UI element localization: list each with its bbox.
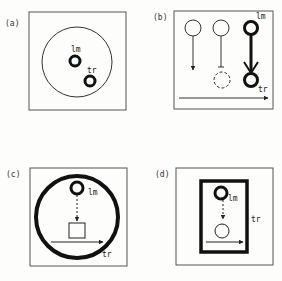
landmark-circle xyxy=(70,56,80,66)
panel-a-label: (a) xyxy=(5,19,19,28)
trajector-label: tr xyxy=(251,215,261,224)
panel-b-label: (b) xyxy=(153,13,167,22)
target-square xyxy=(69,223,85,238)
trajector-region-rect xyxy=(201,181,247,252)
landmark-circle xyxy=(215,187,227,199)
object-circle-middle xyxy=(213,20,229,36)
panel-d: (d) lm tr xyxy=(155,168,273,265)
object-circle-start xyxy=(185,20,201,36)
trajector-circle xyxy=(85,76,95,86)
landmark-label: lm xyxy=(71,45,81,54)
landmark-circle xyxy=(71,182,83,194)
panel-c-label: (c) xyxy=(6,170,20,179)
panel-a: (a) lm tr xyxy=(5,12,126,110)
region-circle xyxy=(42,27,112,97)
trajector-label: tr xyxy=(258,85,268,94)
dashed-destination-circle xyxy=(214,72,230,88)
figure: (a) lm tr (b) lm tr (c) lm xyxy=(0,0,282,281)
landmark-label: lm xyxy=(88,188,98,197)
panel-b: (b) lm tr xyxy=(153,11,273,109)
landmark-label: lm xyxy=(228,194,238,203)
panel-d-label: (d) xyxy=(155,170,169,179)
panel-c: (c) lm tr xyxy=(6,168,127,266)
landmark-label: lm xyxy=(256,12,266,21)
trajector-circle xyxy=(245,74,258,87)
trajector-label: tr xyxy=(102,250,112,259)
landmark-circle xyxy=(245,22,258,35)
trajector-label: tr xyxy=(87,66,97,75)
target-circle xyxy=(215,224,229,238)
